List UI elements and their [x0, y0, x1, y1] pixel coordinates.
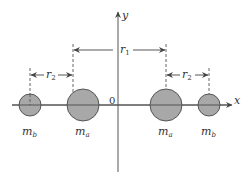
masses: [12, 89, 228, 121]
dimension-r1: r1: [74, 43, 165, 57]
y-axis: y: [118, 9, 129, 172]
label-ma-left: ma: [75, 125, 90, 139]
label-ma-right: ma: [158, 125, 173, 139]
r1-label: r1: [120, 43, 130, 57]
mass-labels: mb ma ma mb: [22, 125, 216, 139]
label-mb-left: mb: [22, 125, 37, 139]
x-axis-label: x: [234, 94, 241, 107]
dimension-r2-right: r2: [167, 68, 208, 82]
dimension-r2-left: r2: [31, 68, 72, 82]
r2-left-label: r2: [46, 68, 56, 82]
y-axis-label: y: [121, 9, 129, 22]
origin-label: 0: [109, 95, 115, 106]
r2-right-label: r2: [182, 68, 192, 82]
mass-distribution-diagram: y x 0 r1 r2 r2: [0, 0, 244, 182]
label-mb-right: mb: [201, 125, 216, 139]
